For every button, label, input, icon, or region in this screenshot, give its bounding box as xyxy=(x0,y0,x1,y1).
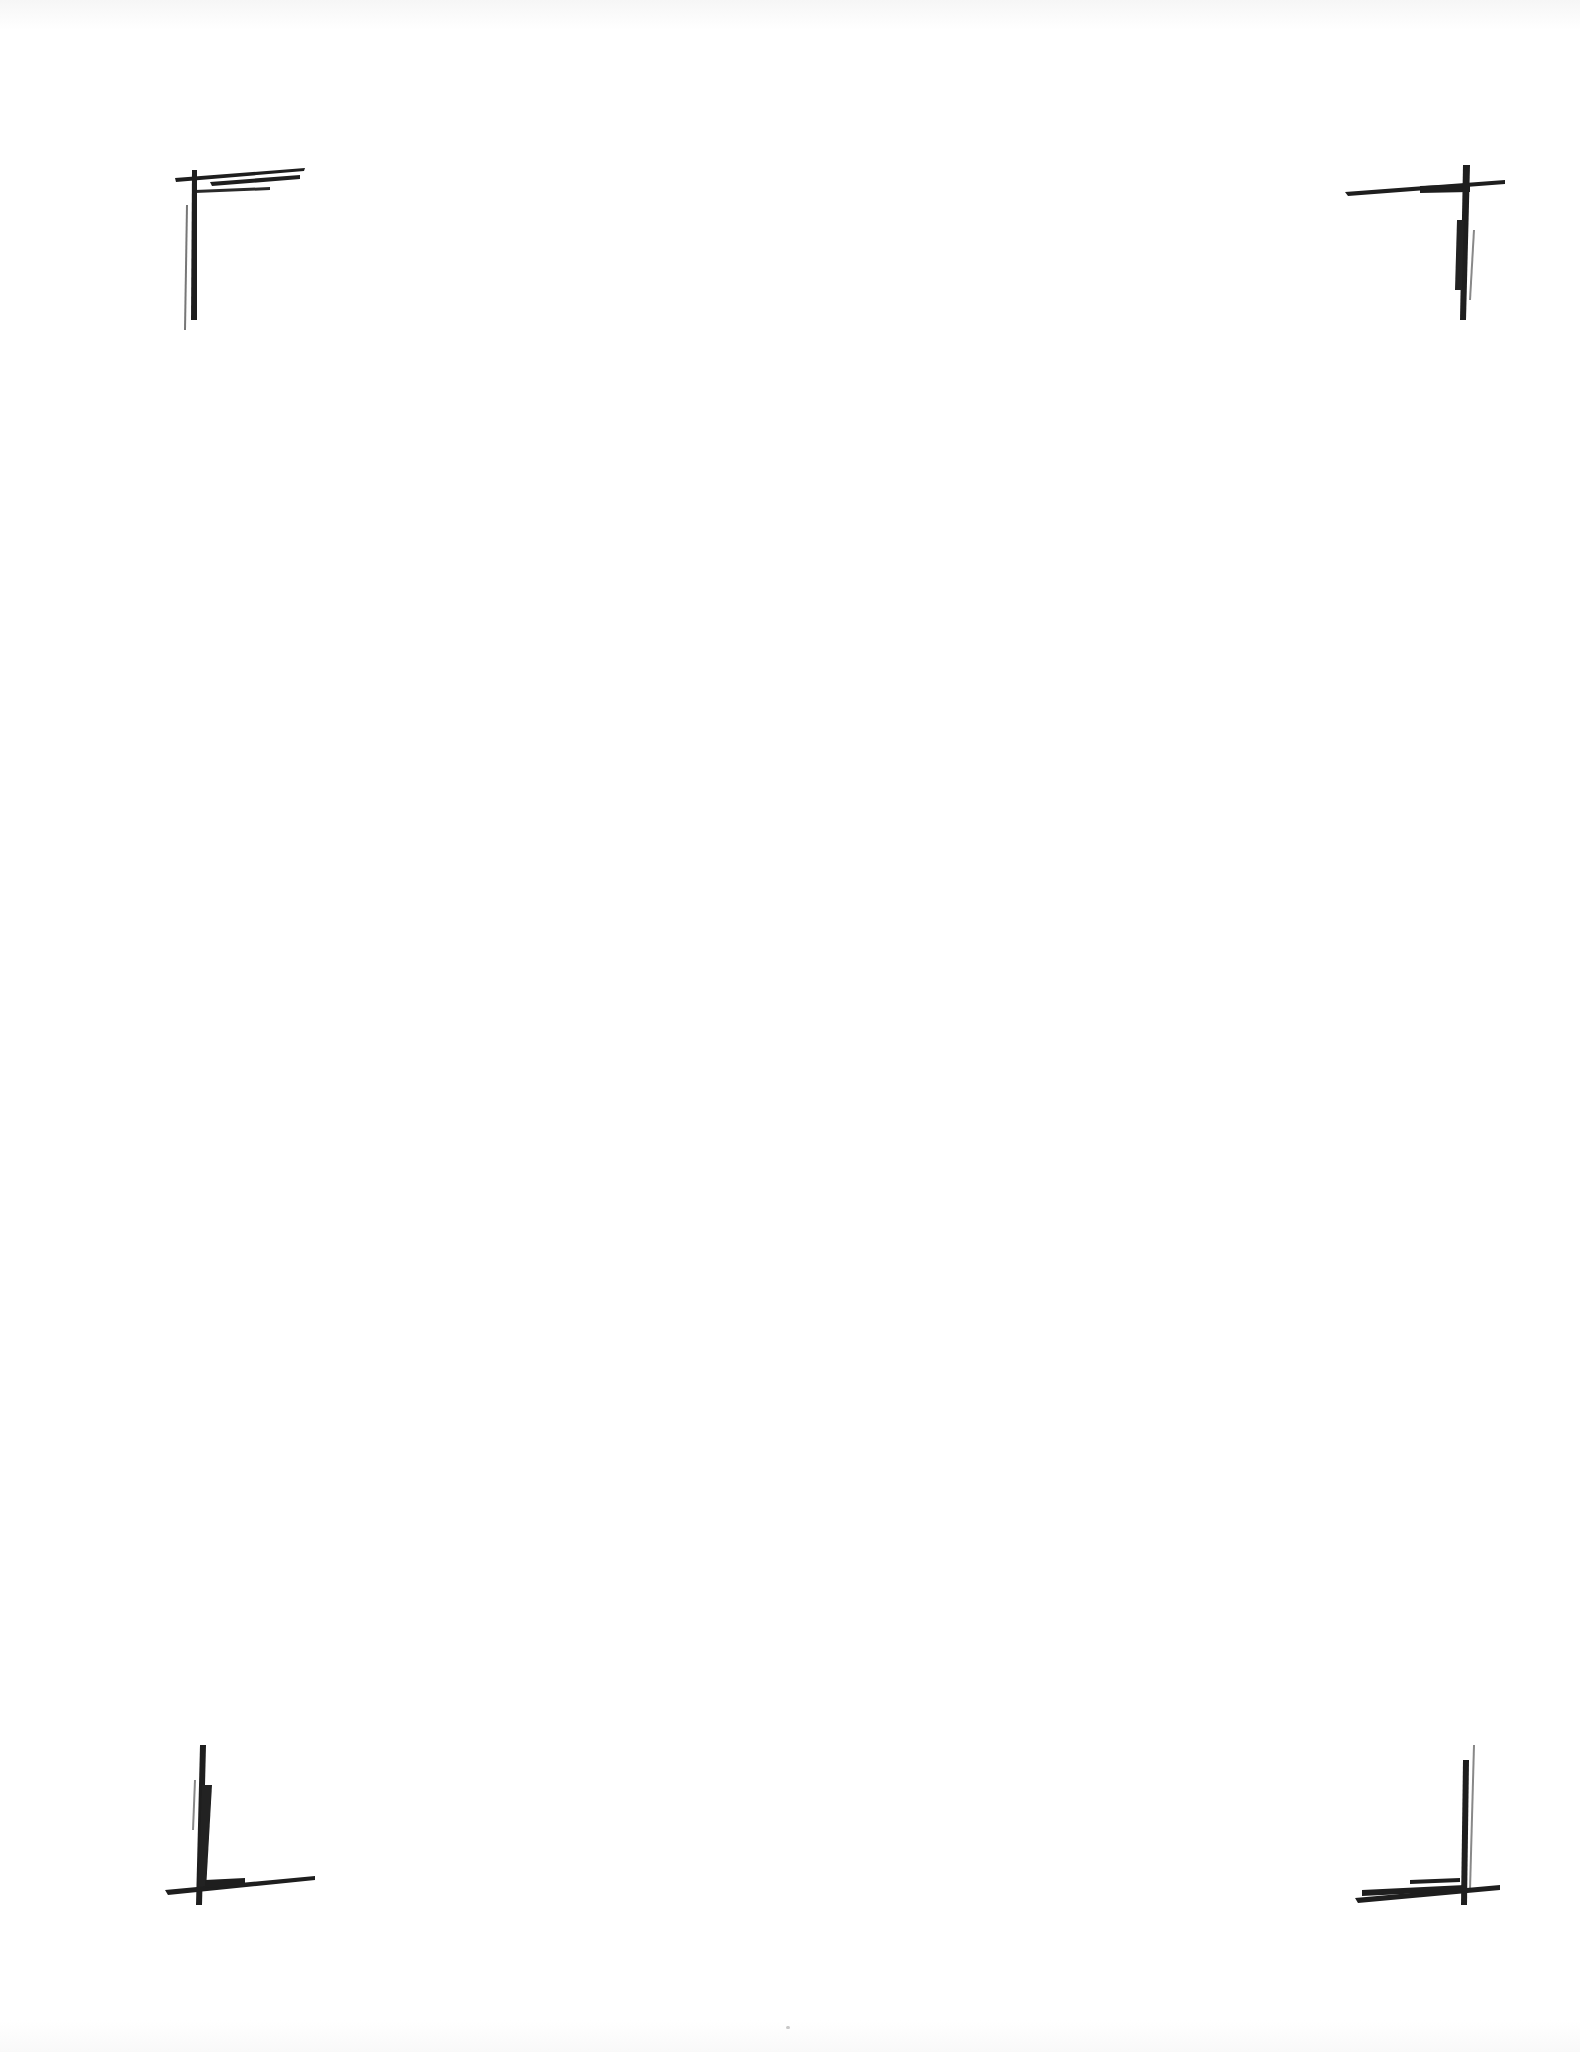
crop-mark-bottom-left xyxy=(160,1740,320,1910)
crop-mark-top-left xyxy=(170,160,310,335)
scan-speck xyxy=(786,2026,790,2029)
scanned-page xyxy=(0,0,1580,2052)
crop-mark-top-right xyxy=(1340,160,1510,335)
crop-mark-bottom-right xyxy=(1350,1740,1520,1910)
